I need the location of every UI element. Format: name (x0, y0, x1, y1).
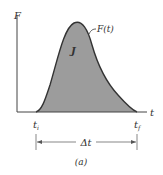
curve-label: F(t) (96, 24, 114, 34)
arrowhead-right-icon (131, 140, 136, 144)
arrowhead-left-icon (37, 140, 42, 144)
end-time-label: tf (134, 119, 142, 132)
start-time-label: ti (33, 119, 39, 131)
figure-caption: (a) (75, 157, 88, 167)
interval-label: Δt (79, 137, 92, 148)
x-axis-label: t (150, 107, 155, 118)
y-axis-label: F (13, 10, 22, 21)
impulse-diagram: F t F(t) J ti tf Δt (a) (0, 0, 163, 175)
curve-leader-line (89, 29, 96, 34)
